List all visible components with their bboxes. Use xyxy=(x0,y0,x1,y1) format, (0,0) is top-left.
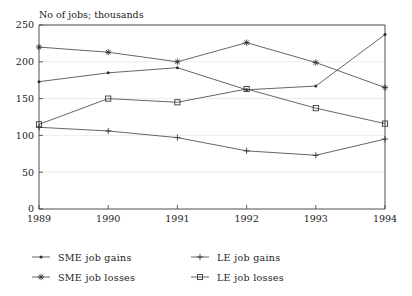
chart-container: No of jobs; thousands 050100150200250 19… xyxy=(0,0,412,296)
y-tick-label: 200 xyxy=(16,56,34,67)
x-axis: 198919901991199219931994 xyxy=(27,205,397,224)
y-tick-label: 100 xyxy=(16,130,34,141)
x-tick-label: 1993 xyxy=(304,213,328,224)
legend-item-sme-job-gains[interactable]: SME job gains xyxy=(32,252,132,263)
x-tick-label: 1992 xyxy=(235,213,259,224)
x-tick-label: 1991 xyxy=(165,213,189,224)
y-tick-label: 150 xyxy=(16,93,34,104)
data-point-asterisk xyxy=(313,59,319,65)
x-tick-label: 1989 xyxy=(27,213,51,224)
series-path xyxy=(39,43,385,88)
series-layer xyxy=(36,33,388,158)
series-path xyxy=(39,35,385,90)
x-tick-label: 1994 xyxy=(373,213,397,224)
legend-label: LE job losses xyxy=(217,272,284,283)
data-point-asterisk xyxy=(382,84,388,90)
series-path xyxy=(39,127,385,155)
data-point-asterisk xyxy=(244,40,250,46)
data-point-plus xyxy=(382,136,388,142)
y-tick-label: 250 xyxy=(16,19,34,30)
data-point-dot xyxy=(38,80,41,83)
data-point-asterisk xyxy=(105,49,111,55)
chart-title: No of jobs; thousands xyxy=(39,9,144,20)
data-point-asterisk xyxy=(36,44,42,50)
legend-item-le-job-losses[interactable]: LE job losses xyxy=(191,272,284,283)
series-sme-job-gains xyxy=(38,33,387,91)
legend-item-le-job-gains[interactable]: LE job gains xyxy=(191,252,280,263)
data-point-asterisk xyxy=(38,274,44,280)
legend-label: LE job gains xyxy=(217,252,280,263)
data-point-dot xyxy=(107,71,110,74)
legend-label: SME job losses xyxy=(58,272,135,283)
x-tick-label: 1990 xyxy=(96,213,120,224)
series-le-job-losses xyxy=(36,86,387,127)
data-point-plus xyxy=(244,148,250,154)
data-point-plus xyxy=(313,152,319,158)
y-tick-label: 50 xyxy=(22,167,34,178)
series-le-job-gains xyxy=(36,124,388,158)
data-point-asterisk xyxy=(174,59,180,65)
line-chart: No of jobs; thousands 050100150200250 19… xyxy=(0,0,412,296)
data-point-dot xyxy=(176,66,179,69)
legend-item-sme-job-losses[interactable]: SME job losses xyxy=(32,272,135,283)
chart-legend: SME job gainsLE job gainsSME job lossesL… xyxy=(32,252,284,283)
gridlines xyxy=(39,25,385,172)
data-point-dot xyxy=(384,33,387,36)
data-point-dot xyxy=(40,256,43,259)
data-point-plus xyxy=(105,128,111,134)
series-sme-job-losses xyxy=(36,40,388,91)
data-point-dot xyxy=(314,85,317,88)
data-point-plus xyxy=(197,254,203,260)
series-path xyxy=(39,89,385,124)
legend-label: SME job gains xyxy=(58,252,132,263)
